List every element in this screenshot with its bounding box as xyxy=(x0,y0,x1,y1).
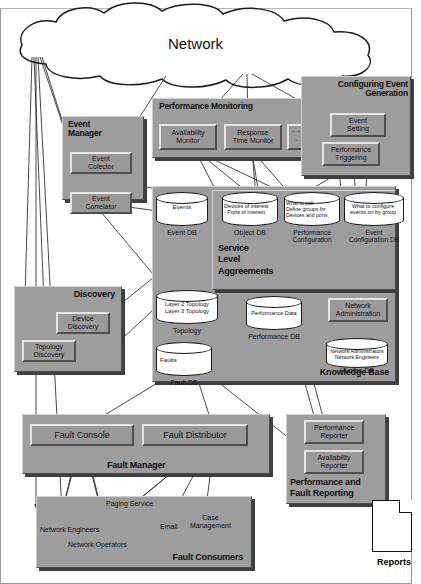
database-topology[interactable]: Layer 2 Topology Layer 3 Topology xyxy=(156,290,218,324)
reports-page-icon[interactable] xyxy=(372,500,412,552)
database-event-db[interactable]: Events xyxy=(156,192,208,226)
performance-db-label: Performance DB xyxy=(244,333,304,341)
module-event-collector[interactable]: Event Colector xyxy=(70,152,132,174)
performance-db-contents: Performance Data xyxy=(246,310,302,317)
architecture-diagram: Network xyxy=(0,0,421,584)
consumer-email[interactable]: Email xyxy=(160,523,178,531)
module-availability-reporter[interactable]: Availability Reporter xyxy=(304,450,364,474)
database-object-db[interactable]: Devices of interest - Ports of interest xyxy=(222,192,278,226)
module-performance-triggering[interactable]: Performance Triggering xyxy=(322,142,380,166)
fault-db-cylinder-top xyxy=(156,342,212,354)
module-event-correlator[interactable]: Event Correlator xyxy=(70,192,132,214)
performance-configuration-label: Performance Configuration xyxy=(282,229,342,244)
performance-db-cylinder-top xyxy=(246,296,302,308)
database-human-db[interactable]: Network Administrators Network Engineers xyxy=(326,338,388,368)
module-availability-monitor[interactable]: Availability Monitor xyxy=(159,124,217,150)
topology-label: Topology xyxy=(156,327,218,335)
topology-contents: Layer 2 Topology Layer 3 Topology xyxy=(156,301,218,315)
reports-page-fold xyxy=(399,500,412,513)
consumer-paging-service[interactable]: Paging Service xyxy=(106,500,153,508)
database-event-configuration-db[interactable]: What to configure events on by group xyxy=(344,192,404,226)
module-event-setting[interactable]: Event Setting xyxy=(330,113,386,137)
consumer-network-operators[interactable]: Network Operators xyxy=(68,541,127,549)
object-db-label: Object DB xyxy=(222,229,278,237)
module-response-time-monitor[interactable]: Response Time Monitor xyxy=(224,124,282,150)
object-db-contents: Devices of interest - Ports of interest xyxy=(222,203,278,216)
service-level-agreements-title: Service Level Aggreements xyxy=(218,243,273,277)
configuring-event-generation-title: Configuring Event Generation xyxy=(306,80,408,98)
event-configuration-db-contents: What to configure events on by group xyxy=(344,203,402,216)
fault-consumers-title: Fault Consumers xyxy=(172,553,243,562)
module-fault-console[interactable]: Fault Console xyxy=(30,424,134,446)
event-configuration-db-label: Event Configuration DB xyxy=(342,229,406,244)
consumer-case-management[interactable]: Case Management xyxy=(190,514,231,530)
event-db-contents: Events xyxy=(156,203,208,210)
module-topology-discovery[interactable]: Topology Discovery xyxy=(22,340,76,362)
event-db-label: Event DB xyxy=(156,229,208,237)
performance-configuration-contents: What to poll Define groups for Devices a… xyxy=(284,201,340,218)
module-fault-distributor[interactable]: Fault Distributor xyxy=(142,424,248,446)
fault-db-contents: Faults xyxy=(156,356,216,363)
reports-label: Reports xyxy=(372,557,416,567)
database-performance-configuration[interactable]: What to poll Define groups for Devices a… xyxy=(284,192,340,226)
event-manager-title: Event Manager xyxy=(68,120,102,138)
performance-monitoring-title: Performance Monitoring xyxy=(159,102,253,111)
performance-and-fault-reporting-title: Performance and Fault Reporting xyxy=(290,477,361,499)
human-db-label: Human DB xyxy=(326,367,388,375)
fault-manager-title: Fault Manager xyxy=(107,461,165,470)
human-db-contents: Network Administrators Network Engineers xyxy=(326,348,388,360)
consumer-network-engineers[interactable]: Network Engineers xyxy=(40,526,99,534)
module-network-administration[interactable]: Network Administration xyxy=(328,298,388,322)
discovery-title: Discovery xyxy=(74,290,115,299)
database-performance-db[interactable]: Performance Data xyxy=(246,296,302,330)
fault-db-label: Fault DB xyxy=(156,379,212,387)
cloud-label: Network xyxy=(168,35,223,52)
database-fault-db[interactable]: Faults xyxy=(156,342,212,376)
module-device-discovery[interactable]: Device Discovery xyxy=(56,312,110,334)
module-performance-reporter[interactable]: Performance Reporter xyxy=(304,420,364,444)
